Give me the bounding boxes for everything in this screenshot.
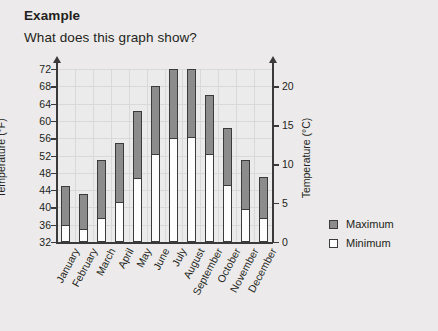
y-axis-left-tick [51,86,57,87]
bar-segment-minimum [169,138,178,242]
bar-may [133,111,142,242]
bar-segment-maximum [61,186,70,226]
y-axis-left-tick-label: 44 [29,184,51,196]
bar-june [151,86,160,242]
y-axis-left-tick [51,156,57,157]
bar-segment-minimum [205,154,214,242]
bar-september [205,95,214,242]
bar-segment-maximum [151,86,160,155]
bar-february [79,194,88,242]
bar-segment-maximum [79,194,88,230]
gridline-vertical [111,69,112,242]
y-axis-left-tick-label: 72 [29,63,51,75]
bar-december [259,177,268,242]
y-axis-left-tick-label: 32 [29,236,51,248]
y-axis-right-tick [273,203,279,204]
y-axis-left-tick-label: 56 [29,132,51,144]
x-axis-label-april: April [115,246,135,270]
legend-swatch-minimum-icon [329,239,338,248]
y-axis-left-tick [51,173,57,174]
bar-segment-minimum [115,202,124,242]
y-axis-left-tick-label: 68 [29,80,51,92]
legend-item-minimum: Minimum [329,235,394,251]
legend-label-maximum: Maximum [346,218,394,230]
bar-segment-minimum [241,209,250,242]
temperature-bar-chart: 3236404448525660646872 05101520 Temperat… [0,56,438,331]
bar-segment-minimum [133,178,142,242]
y-axis-left-line [56,62,58,243]
y-axis-left-title: Temperature (°F) [0,118,7,197]
bar-segment-maximum [241,160,250,210]
gridline-vertical [200,69,201,242]
bar-segment-minimum [97,218,106,242]
gridline-vertical [147,69,148,242]
y-axis-right-tick-label: 5 [282,197,302,209]
y-axis-right-tick-label: 0 [282,236,302,248]
y-axis-left-tick-label: 40 [29,201,51,213]
y-axis-right-arrow-icon [269,56,277,63]
gridline-vertical [75,69,76,242]
y-axis-left-tick [51,207,57,208]
y-axis-right-tick [273,125,279,126]
x-axis-label-june: June [150,246,171,272]
legend-label-minimum: Minimum [346,237,391,249]
bar-segment-maximum [223,128,232,186]
gridline-vertical [236,69,237,242]
bar-segment-minimum [223,185,232,242]
y-axis-right-tick [273,164,279,165]
bar-segment-minimum [151,154,160,242]
y-axis-left-tick-label: 36 [29,219,51,231]
y-axis-right-title: Temperature (°C) [300,118,312,199]
bar-segment-maximum [97,160,106,219]
bar-january [61,186,70,242]
legend-swatch-maximum-icon [329,220,338,229]
bar-segment-maximum [205,95,214,156]
gridline-vertical [182,69,183,242]
y-axis-right-tick-label: 20 [282,80,302,92]
y-axis-left-tick [51,69,57,70]
bar-segment-maximum [133,111,142,179]
y-axis-left-tick [51,190,57,191]
y-axis-left-tick-label: 60 [29,115,51,127]
gridline-vertical [254,69,255,242]
bar-segment-maximum [115,143,124,204]
bar-segment-minimum [259,218,268,242]
y-axis-right-ticks: 05101520 [282,56,302,256]
bar-segment-maximum [169,69,178,139]
y-axis-left-tick [51,225,57,226]
y-axis-left-tick [51,121,57,122]
y-axis-right-tick [273,242,279,243]
header-block: Example What does this graph show? [24,8,197,45]
y-axis-left-tick [51,104,57,105]
y-axis-left-tick-label: 52 [29,150,51,162]
y-axis-right-tick [273,86,279,87]
bar-segment-maximum [259,177,268,219]
bar-april [115,143,124,242]
bar-segment-minimum [79,229,88,242]
x-axis-line [56,242,273,244]
y-axis-right-tick-label: 15 [282,119,302,131]
y-axis-left-arrow-icon [53,56,61,63]
bar-segment-maximum [187,69,196,138]
bar-october [223,128,232,242]
bar-march [97,160,106,242]
y-axis-left-tick [51,138,57,139]
gridline-vertical [129,69,130,242]
gridline-vertical [218,69,219,242]
bar-july [169,69,178,242]
page-title: Example [24,8,197,23]
legend-item-maximum: Maximum [329,216,394,232]
y-axis-left-tick-label: 64 [29,98,51,110]
y-axis-right-line [272,62,274,243]
y-axis-right-tick-label: 10 [282,158,302,170]
screenshot-root: Example What does this graph show? 32364… [0,0,438,331]
bar-segment-minimum [61,225,70,242]
y-axis-left-tick-label: 48 [29,167,51,179]
bar-august [187,69,196,242]
bar-segment-minimum [187,137,196,242]
question-text: What does this graph show? [24,30,197,45]
y-axis-left-ticks: 3236404448525660646872 [25,56,51,256]
gridline-vertical [165,69,166,242]
gridline-vertical [93,69,94,242]
y-axis-left-tick [51,242,57,243]
